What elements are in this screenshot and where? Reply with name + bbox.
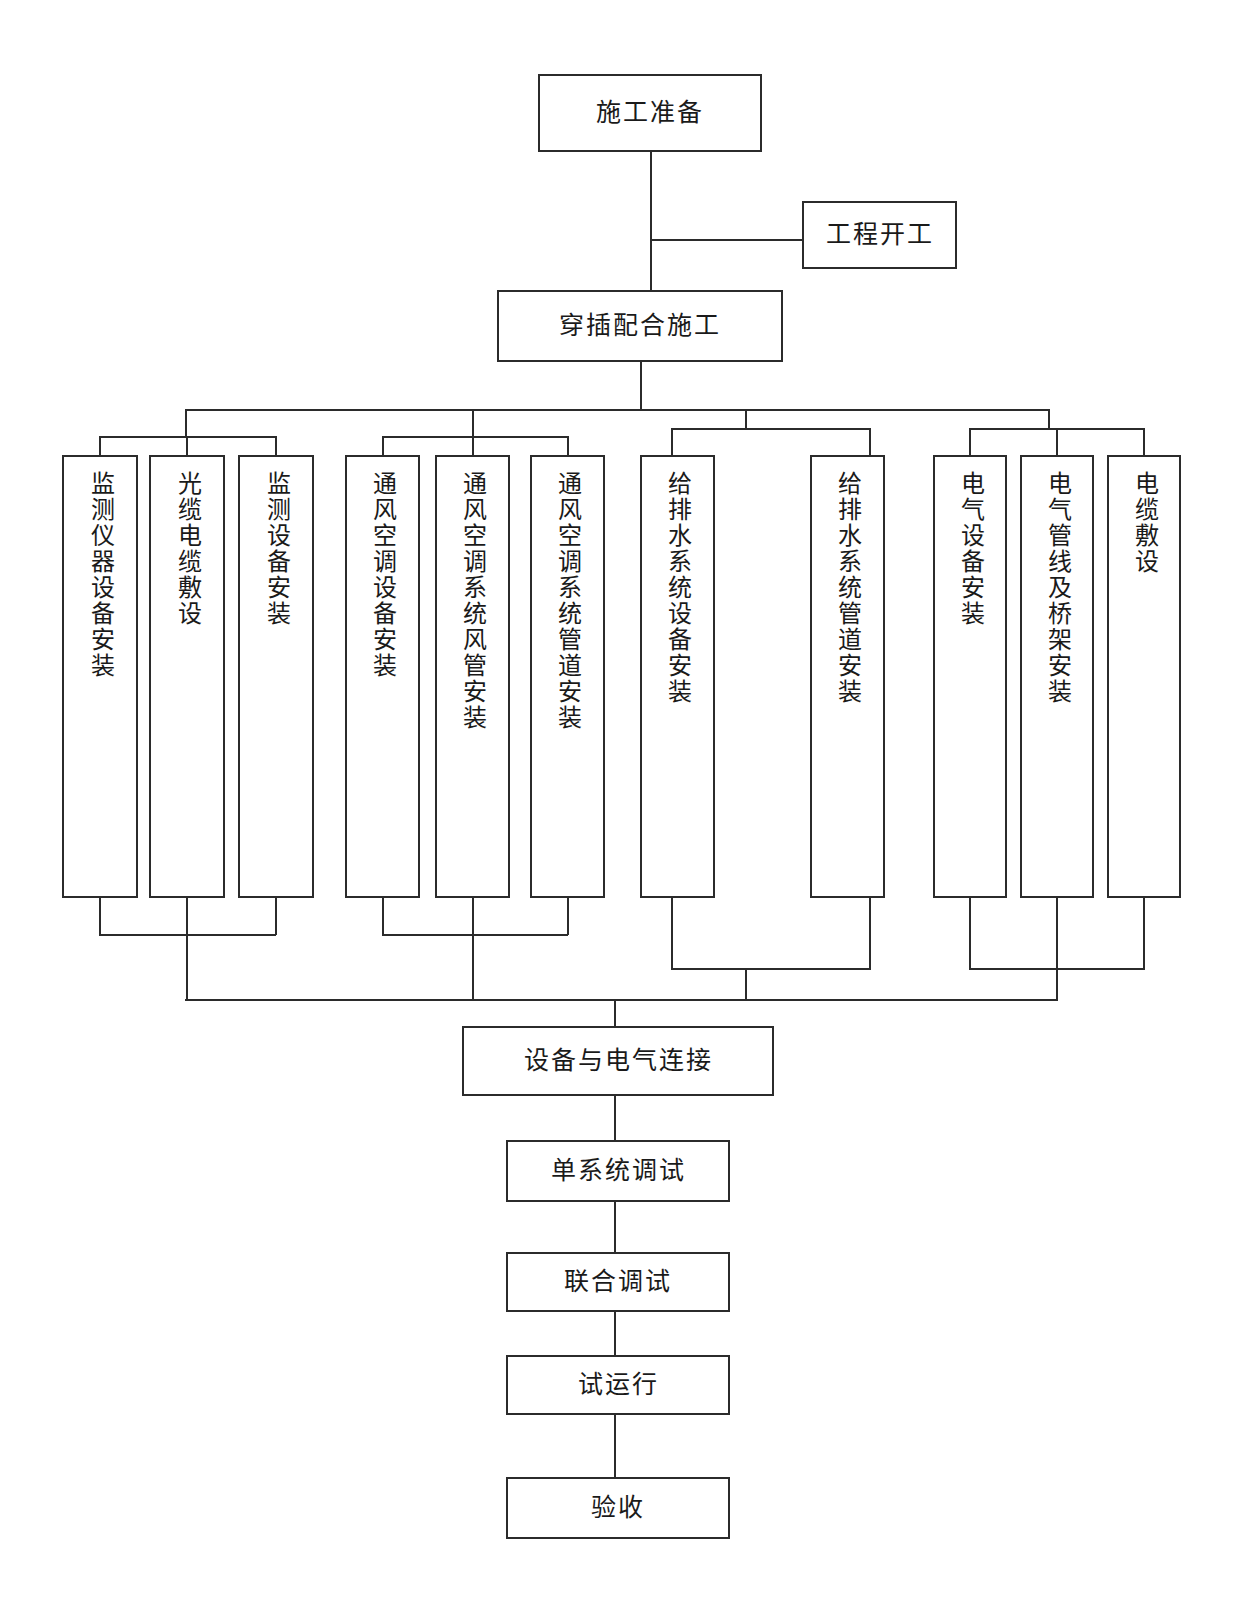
connector-group-2-task-3 — [567, 436, 569, 455]
node-monitoring-instrument-equipment-installation: 监测仪器设备安装 — [62, 455, 138, 898]
collector-group-2-stem — [472, 897, 474, 1001]
node-label: 监测仪器设备安装 — [82, 471, 118, 679]
connector-bus-to-group-2 — [472, 409, 474, 437]
main-collector-bus — [185, 999, 1057, 1001]
connector-group-2-task-2 — [472, 436, 474, 455]
group-2-sub-bus — [382, 436, 568, 438]
collector-group-4-task-1 — [969, 897, 971, 969]
connector-coordinate-stem — [640, 362, 642, 410]
node-label: 通风空调系统管道安装 — [549, 471, 585, 731]
node-label: 通风空调系统风管安装 — [454, 471, 490, 731]
node-hvac-equipment-installation: 通风空调设备安装 — [345, 455, 420, 898]
node-joint-commissioning: 联合调试 — [506, 1252, 730, 1312]
connector-group-4-task-3 — [1143, 428, 1145, 455]
connector-bus-to-group-3 — [745, 409, 747, 429]
connector-trial-run-to-acceptance — [614, 1415, 616, 1477]
connector-group-1-task-2 — [186, 436, 188, 455]
collector-group-3-task-2 — [869, 897, 871, 969]
group-3-sub-bus — [671, 428, 871, 430]
connector-group-2-task-1 — [382, 436, 384, 455]
connector-bus-to-group-4 — [1048, 409, 1050, 429]
connector-collector-to-equipment-electrical-connection — [614, 999, 616, 1026]
connector-connection-to-single-system-commissioning — [614, 1096, 616, 1140]
node-interspersed-coordinated-construction: 穿插配合施工 — [497, 290, 783, 362]
node-hvac-duct-installation: 通风空调系统风管安装 — [435, 455, 510, 898]
collector-group-3-task-1 — [671, 897, 673, 969]
node-single-system-commissioning: 单系统调试 — [506, 1140, 730, 1202]
node-label: 给排水系统管道安装 — [829, 471, 865, 705]
node-label: 设备与电气连接 — [524, 1046, 713, 1076]
connector-group-3-task-1 — [671, 428, 673, 455]
node-label: 验收 — [591, 1493, 645, 1523]
collector-group-1-task-3 — [275, 897, 277, 935]
node-electrical-equipment-installation: 电气设备安装 — [933, 455, 1007, 898]
node-label: 试运行 — [578, 1370, 659, 1400]
connector-group-4-task-2 — [1056, 428, 1058, 455]
node-label: 光缆电缆敷设 — [169, 471, 205, 627]
node-construction-preparation: 施工准备 — [538, 74, 762, 152]
node-project-kickoff: 工程开工 — [802, 201, 957, 269]
node-electrical-conduit-and-tray-installation: 电气管线及桥架安装 — [1020, 455, 1094, 898]
node-trial-run: 试运行 — [506, 1355, 730, 1415]
node-plumbing-pipework-installation: 给排水系统管道安装 — [810, 455, 885, 898]
connector-group-4-task-1 — [969, 428, 971, 455]
node-label: 给排水系统设备安装 — [659, 471, 695, 705]
group-2-collector-bus — [382, 934, 568, 936]
collector-group-2-task-3 — [567, 897, 569, 935]
node-monitoring-equipment-installation: 监测设备安装 — [238, 455, 314, 898]
connector-group-1-task-1 — [99, 436, 101, 455]
node-label: 联合调试 — [564, 1267, 672, 1297]
collector-group-1-stem — [186, 897, 188, 1001]
collector-group-2-task-1 — [382, 897, 384, 935]
connector-bus-to-group-1 — [185, 409, 187, 437]
connector-joint-to-trial-run — [614, 1312, 616, 1355]
main-distribution-bus — [185, 409, 1050, 411]
connector-kickoff-tap — [650, 239, 802, 241]
connector-prep-to-coordinate — [650, 152, 652, 290]
node-label: 穿插配合施工 — [559, 311, 721, 341]
group-3-collector-bus — [671, 968, 871, 970]
node-label: 监测设备安装 — [258, 471, 294, 627]
collector-group-3-stem — [745, 968, 747, 1001]
connector-group-3-task-2 — [869, 428, 871, 455]
node-acceptance: 验收 — [506, 1477, 730, 1539]
node-label: 通风空调设备安装 — [364, 471, 400, 679]
connector-single-to-joint-commissioning — [614, 1202, 616, 1252]
node-label: 单系统调试 — [551, 1156, 686, 1186]
node-plumbing-equipment-installation: 给排水系统设备安装 — [640, 455, 715, 898]
node-equipment-electrical-connection: 设备与电气连接 — [462, 1026, 774, 1096]
node-label: 施工准备 — [596, 98, 704, 128]
collector-group-4-task-3 — [1143, 897, 1145, 969]
node-hvac-pipework-installation: 通风空调系统管道安装 — [530, 455, 605, 898]
flowchart-canvas: 施工准备 工程开工 穿插配合施工 监测仪器设备安装 光缆电缆敷设 监测设备安装 … — [0, 0, 1247, 1605]
node-label: 电气管线及桥架安装 — [1039, 471, 1075, 705]
collector-group-1-task-1 — [99, 897, 101, 935]
node-optical-and-power-cable-laying: 光缆电缆敷设 — [149, 455, 225, 898]
connector-group-1-task-3 — [275, 436, 277, 455]
node-label: 工程开工 — [826, 220, 934, 250]
node-label: 电缆敷设 — [1126, 471, 1162, 575]
node-label: 电气设备安装 — [952, 471, 988, 627]
collector-group-4-stem — [1056, 897, 1058, 1001]
node-cable-laying: 电缆敷设 — [1107, 455, 1181, 898]
